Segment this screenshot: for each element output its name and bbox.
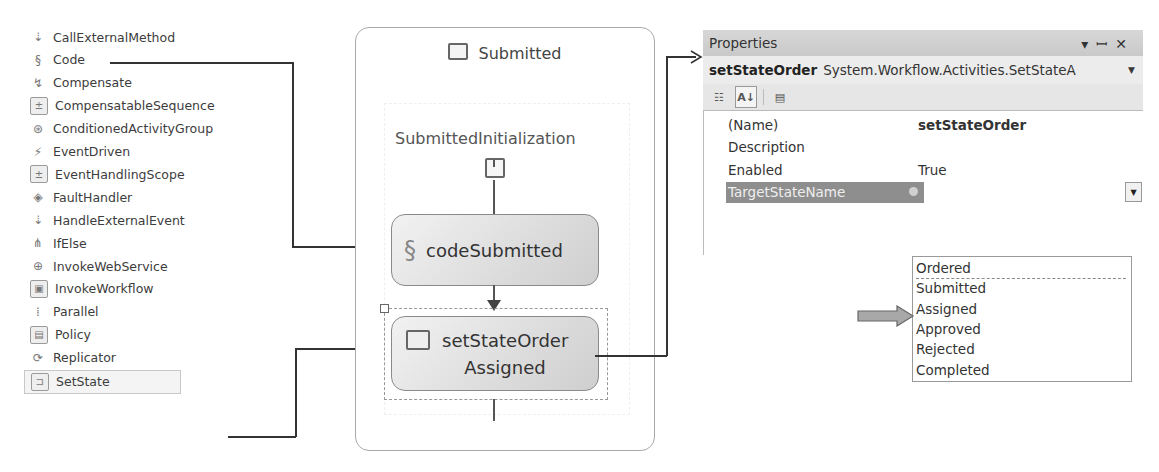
toolbox-item-handleexternalevent[interactable]: ⇣HandleExternalEvent bbox=[30, 209, 185, 231]
arrow-head-icon bbox=[689, 50, 703, 64]
toolbox-item-label: EventHandlingScope bbox=[55, 167, 185, 182]
toolbox-item-label: FaultHandler bbox=[53, 190, 132, 205]
policy-icon: ▤ bbox=[30, 326, 48, 344]
property-grid: (Name) setStateOrder Description Enabled… bbox=[703, 110, 1144, 255]
toolbox-item-setstate[interactable]: ⊐SetState bbox=[24, 370, 181, 394]
object-type: System.Workflow.Activities.SetStateA bbox=[823, 62, 1076, 78]
toolbox-item-conditionedactivitygroup[interactable]: ⊛ConditionedActivityGroup bbox=[30, 118, 213, 140]
toolbox-item-label: InvokeWebService bbox=[53, 259, 168, 274]
property-pages-icon[interactable]: ▤ bbox=[770, 87, 790, 107]
property-value: setStateOrder bbox=[918, 117, 1026, 133]
header-controls: ▾ꟷ✕ bbox=[1081, 34, 1135, 53]
state-title: Submitted bbox=[356, 43, 654, 63]
toolbox-item-label: HandleExternalEvent bbox=[53, 213, 185, 228]
property-row-targetstatename[interactable]: TargetStateName ▼ bbox=[704, 182, 1144, 204]
property-name: TargetStateName bbox=[726, 182, 924, 203]
connector-setstate bbox=[295, 348, 297, 437]
fault-handler-icon: ◈ bbox=[30, 189, 46, 205]
info-dot-icon bbox=[909, 187, 918, 196]
code-scroll-icon: § bbox=[404, 236, 416, 264]
toolbox-item-eventdriven[interactable]: ⚡EventDriven bbox=[30, 141, 130, 163]
activity-name: setStateOrder bbox=[442, 330, 568, 351]
dropdown-option-assigned[interactable]: Assigned bbox=[916, 299, 977, 319]
connector-code bbox=[110, 62, 293, 64]
state-title-text: Submitted bbox=[478, 44, 561, 63]
handle-external-event-icon: ⇣ bbox=[30, 212, 46, 228]
pin-icon[interactable]: ꟷ bbox=[1096, 36, 1115, 52]
activity-name: codeSubmitted bbox=[426, 240, 563, 261]
toolbox-item-parallel[interactable]: ⁞Parallel bbox=[30, 301, 99, 323]
dropdown-option-completed[interactable]: Completed bbox=[916, 360, 990, 380]
dropdown-button[interactable]: ▼ bbox=[1125, 182, 1142, 202]
set-state-icon: ⊐ bbox=[31, 373, 49, 391]
toolbox-item-callexternalmethod[interactable]: ⇣CallExternalMethod bbox=[30, 26, 175, 48]
state-icon bbox=[448, 43, 468, 60]
dropdown-option-approved[interactable]: Approved bbox=[916, 319, 981, 339]
toolbox-item-code[interactable]: §Code bbox=[30, 49, 85, 71]
property-row-name[interactable]: (Name) setStateOrder bbox=[704, 115, 1144, 137]
set-state-icon bbox=[406, 330, 430, 350]
activity-codeSubmitted[interactable]: § codeSubmitted bbox=[391, 214, 599, 286]
compensatable-sequence-icon: ± bbox=[30, 97, 48, 115]
dropdown-option-submitted[interactable]: Submitted bbox=[916, 278, 986, 298]
toolbox-item-label: CallExternalMethod bbox=[53, 30, 175, 45]
properties-title: Properties bbox=[709, 35, 777, 51]
toolbox-item-invokeworkflow[interactable]: ▣InvokeWorkflow bbox=[30, 278, 154, 300]
property-name: (Name) bbox=[728, 117, 778, 133]
toolbox-item-compensatablesequence[interactable]: ±CompensatableSequence bbox=[30, 95, 215, 117]
toolbox-item-label: SetState bbox=[56, 374, 110, 389]
toolbox-item-faulthandler[interactable]: ◈FaultHandler bbox=[30, 186, 132, 208]
properties-toolbar: ☷ A↓ ▤ bbox=[703, 84, 1143, 111]
categorized-icon[interactable]: ☷ bbox=[709, 87, 729, 107]
chevron-down-icon[interactable]: ▼ bbox=[1128, 65, 1135, 75]
code-scroll-icon: § bbox=[30, 52, 46, 68]
toolbox-item-label: Compensate bbox=[53, 75, 132, 90]
properties-header: Properties ▾ꟷ✕ bbox=[703, 30, 1143, 56]
toolbox-item-label: CompensatableSequence bbox=[55, 98, 215, 113]
toolbox-item-eventhandlingscope[interactable]: ±EventHandlingScope bbox=[30, 163, 185, 185]
toolbox-item-label: Code bbox=[53, 52, 85, 67]
property-row-description[interactable]: Description bbox=[704, 137, 1144, 159]
toolbox-item-label: Replicator bbox=[53, 350, 116, 365]
conditioned-activity-group-icon: ⊛ bbox=[30, 121, 46, 137]
window-menu-icon[interactable]: ▾ bbox=[1081, 36, 1096, 52]
dropdown-option-ordered[interactable]: Ordered bbox=[916, 258, 1126, 279]
alphabetical-icon[interactable]: A↓ bbox=[735, 86, 757, 108]
dropdown-option-rejected[interactable]: Rejected bbox=[916, 339, 975, 359]
property-value: True bbox=[918, 162, 947, 178]
connector-properties bbox=[595, 355, 667, 357]
toolbox-item-ifelse[interactable]: ⋔IfElse bbox=[30, 232, 87, 254]
parallel-icon: ⁞ bbox=[30, 304, 46, 320]
toolbox-item-invokewebservice[interactable]: ⊕InvokeWebService bbox=[30, 255, 168, 277]
target-state-dropdown: OrderedSubmittedAssignedApprovedRejected… bbox=[912, 256, 1132, 382]
toolbox-item-label: IfElse bbox=[53, 236, 87, 251]
event-handling-scope-icon: ± bbox=[30, 165, 48, 183]
flow-line bbox=[493, 180, 495, 214]
toolbox-item-label: Policy bbox=[55, 327, 91, 342]
if-else-icon: ⋔ bbox=[30, 235, 46, 251]
flow-line bbox=[493, 399, 495, 421]
toolbox-panel: ⇣CallExternalMethod§Code↯Compensate±Comp… bbox=[0, 0, 320, 472]
toolbox-item-compensate[interactable]: ↯Compensate bbox=[30, 72, 132, 94]
property-row-enabled[interactable]: Enabled True bbox=[704, 160, 1144, 182]
invoke-web-service-icon: ⊕ bbox=[30, 258, 46, 274]
object-selector[interactable]: setStateOrder System.Workflow.Activities… bbox=[703, 56, 1143, 84]
object-name: setStateOrder bbox=[709, 62, 817, 78]
toolbox-item-label: EventDriven bbox=[53, 144, 130, 159]
activity-setStateOrder[interactable]: setStateOrder Assigned bbox=[391, 316, 599, 391]
toolbox-item-replicator[interactable]: ⟳Replicator bbox=[30, 347, 116, 369]
pointer-arrow-icon bbox=[857, 305, 915, 327]
properties-panel: Properties ▾ꟷ✕ setStateOrder System.Work… bbox=[703, 30, 1143, 255]
connector-properties bbox=[666, 56, 668, 356]
invoke-workflow-icon: ▣ bbox=[30, 280, 48, 298]
property-name: Enabled bbox=[728, 162, 783, 178]
compensate-icon: ↯ bbox=[30, 75, 46, 91]
selection-handle[interactable] bbox=[380, 304, 389, 313]
toolbar-divider bbox=[763, 89, 764, 105]
event-driven-icon: ⚡ bbox=[30, 144, 46, 160]
property-name-text: TargetStateName bbox=[728, 184, 845, 200]
toolbox-item-label: Parallel bbox=[53, 304, 99, 319]
close-icon[interactable]: ✕ bbox=[1115, 36, 1135, 52]
activity-target-state: Assigned bbox=[464, 357, 545, 378]
toolbox-item-policy[interactable]: ▤Policy bbox=[30, 324, 91, 346]
